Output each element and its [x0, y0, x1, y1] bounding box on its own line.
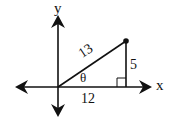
- adjacent-leg-label: 12: [81, 92, 95, 106]
- terminal-point-dot: [123, 38, 129, 44]
- y-axis: [51, 15, 65, 117]
- triangle-diagram: y x 13 5 θ 12: [0, 0, 172, 122]
- right-angle-marker: [117, 78, 126, 87]
- angle-theta-label: θ: [80, 71, 86, 84]
- right-triangle: [58, 38, 129, 87]
- x-axis-label: x: [156, 78, 164, 93]
- opposite-leg-label: 5: [130, 58, 137, 72]
- y-axis-label: y: [54, 1, 62, 16]
